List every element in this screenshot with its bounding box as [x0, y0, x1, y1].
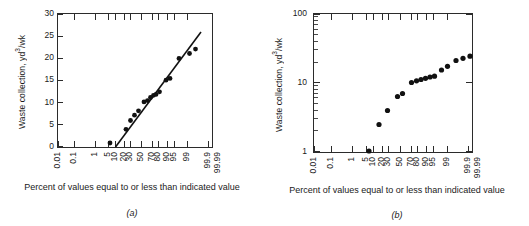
panel-b-y-axis-label-exponent: 3 — [271, 51, 278, 55]
panel-a-ytick-20: 20 — [24, 53, 54, 62]
panel-b-xtick-1: 1 — [347, 157, 356, 162]
panel-a-xtick-0-1: 0.1 — [69, 152, 78, 164]
panel-b-y-ticks-right — [466, 15, 472, 152]
panel-b-x-axis-title: Percent of values equal to or less than … — [265, 185, 529, 195]
panel-b-plot-area — [313, 13, 473, 153]
panel-a-x-ticks-top — [75, 14, 188, 20]
panel-a-xtick-50: 50 — [136, 152, 145, 161]
panel-a-ytick-25: 25 — [24, 31, 54, 40]
panel-b-ytick-1: 1 — [277, 147, 307, 156]
panel-b-xtick-0-01: 0.01 — [309, 157, 318, 174]
panel-b-y-axis-label-tail: /wk — [274, 38, 284, 51]
panel-a-xtick-95: 95 — [169, 152, 178, 161]
panel-a-xtick-30: 30 — [125, 152, 134, 161]
panel-a-y-axis-label-exponent: 3 — [14, 48, 21, 52]
panel-b-xtick-50: 50 — [395, 157, 404, 166]
panel-b-x-ticks-bottom — [315, 146, 469, 152]
panel-a-xtick-1: 1 — [90, 152, 99, 157]
panel-b-xtick-99-9: 99.9 — [463, 157, 472, 174]
panel-b-xtick-30: 30 — [383, 157, 392, 166]
panel-b-xtick-95: 95 — [428, 157, 437, 166]
panel-a-caption: (a) — [0, 208, 264, 218]
panel-a-xtick-99-99: 99.99 — [213, 152, 222, 173]
panel-b-xtick-0-1: 0.1 — [326, 157, 335, 169]
panel-a-y-ticks — [58, 15, 63, 147]
panel-a-ytick-10: 10 — [24, 98, 54, 107]
panel-b-xtick-99: 99 — [442, 157, 451, 166]
panel-a-xtick-0-01: 0.01 — [53, 152, 62, 169]
figure-probability-plots: Waste collection, yd3/wk 0 5 10 15 20 25… — [0, 0, 529, 226]
panel-a-plot-area — [57, 13, 213, 148]
panel-b-x-ticks-top — [331, 14, 447, 20]
panel-a-plot-svg — [58, 14, 212, 147]
panel-a: Waste collection, yd3/wk 0 5 10 15 20 25… — [0, 0, 264, 226]
panel-a-ytick-0: 0 — [24, 142, 54, 151]
panel-a-ytick-15: 15 — [24, 75, 54, 84]
panel-b-ytick-10: 10 — [277, 78, 307, 87]
panel-a-xtick-99-9: 99.9 — [203, 152, 212, 169]
panel-b: Waste collection, yd3/wk 1 10 100 — [265, 0, 529, 226]
panel-b-plot-svg — [314, 14, 472, 152]
panel-b-xtick-99-99: 99.99 — [473, 157, 482, 178]
panel-b-data-points — [366, 54, 472, 154]
panel-b-ytick-100: 100 — [277, 9, 307, 18]
panel-b-y-axis-label-base: Waste collection, yd — [274, 55, 284, 132]
panel-a-x-ticks-bottom — [59, 141, 209, 147]
panel-a-ytick-30: 30 — [24, 9, 54, 18]
panel-a-xtick-99: 99 — [182, 152, 191, 161]
panel-a-y-axis-label-base: Waste collection, yd — [17, 52, 27, 129]
panel-a-data-points — [108, 47, 198, 146]
panel-a-ytick-5: 5 — [24, 120, 54, 129]
panel-b-y-ticks-minor — [314, 17, 318, 131]
panel-b-caption: (b) — [265, 210, 529, 220]
panel-a-x-axis-title: Percent of values equal to or less than … — [0, 182, 264, 192]
